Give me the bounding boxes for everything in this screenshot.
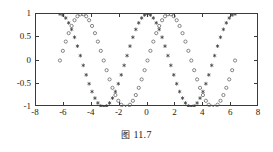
marker-star	[198, 96, 201, 100]
marker-star	[76, 44, 79, 48]
marker-circle	[216, 103, 219, 106]
marker-circle	[76, 15, 79, 18]
marker-star	[117, 82, 120, 86]
marker-star	[70, 27, 73, 31]
x-tick-label: -8	[31, 108, 39, 117]
marker-star	[178, 90, 181, 94]
marker-star	[210, 63, 213, 67]
marker-star	[222, 27, 225, 31]
marker-star	[184, 101, 187, 105]
marker-circle	[204, 99, 207, 102]
x-tick-mark	[147, 102, 148, 105]
x-tick-mark-top	[119, 14, 120, 17]
marker-circle	[93, 32, 96, 35]
x-tick-mark	[202, 102, 203, 105]
marker-circle	[233, 59, 236, 62]
marker-circle	[67, 32, 70, 35]
marker-star	[166, 54, 169, 58]
marker-circle	[143, 69, 146, 72]
marker-circle	[231, 69, 234, 72]
marker-circle	[114, 93, 117, 96]
y-tick-mark	[36, 60, 39, 61]
plot-svg	[36, 14, 259, 107]
marker-circle	[131, 99, 134, 102]
x-tick-mark-top	[91, 14, 92, 17]
marker-circle	[201, 93, 204, 96]
figure-caption: 图 11.7	[0, 128, 273, 141]
marker-star	[140, 16, 143, 20]
marker-circle	[108, 78, 111, 81]
marker-circle	[90, 24, 93, 27]
y-tick-label: 1	[3, 9, 31, 18]
marker-star	[82, 63, 85, 67]
marker-star	[131, 35, 134, 39]
marker-star	[99, 104, 102, 107]
marker-star	[134, 27, 137, 31]
y-tick-label: -0.5	[3, 78, 31, 87]
marker-star	[152, 16, 155, 20]
series-circle	[58, 14, 236, 107]
marker-circle	[161, 19, 164, 22]
x-tick-mark-top	[147, 14, 148, 17]
marker-circle	[140, 78, 143, 81]
marker-star	[125, 54, 128, 58]
marker-circle	[190, 59, 193, 62]
marker-circle	[99, 49, 102, 52]
marker-circle	[134, 93, 137, 96]
marker-star	[114, 90, 117, 94]
marker-star	[90, 90, 93, 94]
marker-star	[160, 35, 163, 39]
x-tick-label: -4	[87, 108, 95, 117]
marker-circle	[58, 59, 61, 62]
x-tick-label: -6	[59, 108, 67, 117]
x-tick-mark	[230, 102, 231, 105]
caption-prefix: 图	[121, 130, 130, 140]
marker-star	[64, 16, 67, 20]
y-tick-label: 0	[3, 55, 31, 64]
marker-circle	[111, 86, 114, 89]
figure-container: -8-6-4-202468 -1-0.500.51 图 11.7	[0, 0, 273, 152]
marker-star	[73, 35, 76, 39]
marker-star	[213, 54, 216, 58]
marker-circle	[158, 24, 161, 27]
x-tick-mark-top	[63, 14, 64, 17]
marker-circle	[85, 15, 88, 18]
marker-circle	[155, 32, 158, 35]
y-tick-mark-right	[254, 83, 257, 84]
marker-star	[204, 82, 207, 86]
marker-star	[175, 82, 178, 86]
marker-circle	[228, 78, 231, 81]
x-tick-label: -2	[115, 108, 123, 117]
marker-circle	[73, 19, 76, 22]
marker-circle	[61, 49, 64, 52]
x-tick-label: 2	[172, 108, 177, 117]
marker-circle	[225, 86, 228, 89]
marker-star	[108, 101, 111, 105]
marker-circle	[175, 19, 178, 22]
marker-star	[172, 73, 175, 77]
x-tick-mark	[174, 102, 175, 105]
x-tick-mark	[91, 102, 92, 105]
x-tick-mark-top	[230, 14, 231, 17]
marker-circle	[64, 40, 67, 43]
marker-star	[120, 73, 123, 77]
marker-circle	[152, 40, 155, 43]
y-tick-mark	[36, 83, 39, 84]
x-tick-label: 6	[228, 108, 233, 117]
marker-circle	[187, 49, 190, 52]
marker-star	[193, 104, 196, 107]
marker-circle	[137, 86, 140, 89]
marker-star	[93, 96, 96, 100]
marker-circle	[102, 59, 105, 62]
series-star	[58, 14, 236, 107]
x-tick-mark	[119, 102, 120, 105]
y-tick-label: 0.5	[3, 32, 31, 41]
marker-star	[187, 104, 190, 107]
marker-star	[169, 63, 172, 67]
marker-circle	[96, 40, 99, 43]
marker-circle	[178, 24, 181, 27]
marker-star	[216, 44, 219, 48]
marker-star	[123, 63, 126, 67]
marker-star	[219, 35, 222, 39]
marker-star	[155, 21, 158, 25]
